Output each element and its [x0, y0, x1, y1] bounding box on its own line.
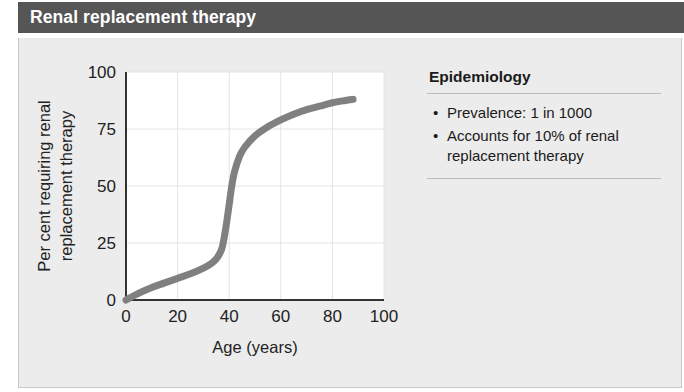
epidemiology-panel: Epidemiology •Prevalence: 1 in 1000•Acco…	[421, 66, 667, 179]
y-tick-label: 0	[107, 291, 116, 310]
list-item: •Prevalence: 1 in 1000	[431, 103, 659, 124]
title-bar: Renal replacement therapy	[18, 2, 684, 33]
x-tick-label: 0	[121, 307, 130, 326]
epidemiology-heading: Epidemiology	[427, 66, 661, 93]
y-axis-title-line-2: replacement therapy	[57, 110, 75, 261]
bullet-icon: •	[433, 103, 438, 124]
y-tick-label: 50	[97, 177, 116, 196]
y-tick-label: 100	[88, 63, 116, 82]
divider-bottom	[427, 178, 661, 179]
chart-figure: 020406080100 0255075100 Age (years) Per …	[19, 38, 439, 388]
y-tick-label: 25	[97, 234, 116, 253]
list-item-label: Accounts for 10% of renal replacement th…	[447, 127, 619, 165]
x-tick-label: 20	[168, 307, 187, 326]
x-axis-title: Age (years)	[212, 338, 297, 356]
x-tick-label: 40	[220, 307, 239, 326]
list-item-label: Prevalence: 1 in 1000	[447, 104, 592, 121]
list-item: •Accounts for 10% of renal replacement t…	[431, 126, 659, 167]
x-axis-tick-labels: 020406080100	[121, 307, 398, 326]
y-tick-label: 75	[97, 120, 116, 139]
y-axis-title-line-1: Per cent requiring renal	[35, 100, 53, 272]
x-tick-label: 80	[323, 307, 342, 326]
page-title: Renal replacement therapy	[18, 7, 256, 28]
content-panel: 020406080100 0255075100 Age (years) Per …	[18, 38, 682, 388]
y-axis-tick-labels: 0255075100	[88, 63, 116, 310]
page-root: Renal replacement therapy 020406080100 0…	[0, 0, 684, 392]
epidemiology-bullet-list: •Prevalence: 1 in 1000•Accounts for 10% …	[427, 94, 661, 178]
bullet-icon: •	[433, 126, 438, 147]
renal-replacement-line-chart: 020406080100 0255075100 Age (years) Per …	[19, 38, 439, 388]
x-tick-label: 100	[370, 307, 398, 326]
x-tick-label: 60	[271, 307, 290, 326]
